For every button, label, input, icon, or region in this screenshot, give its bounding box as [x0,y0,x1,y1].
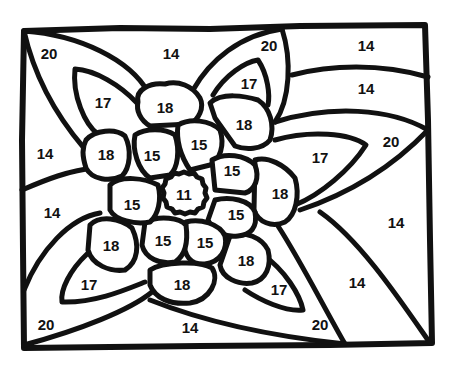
region-number-right-lower: 14 [388,215,405,230]
region-number-leaf-br: 17 [271,282,288,297]
region-number-leaf-right: 17 [312,150,329,165]
region-number-petal-inner-tl: 15 [144,148,161,163]
region-number-bottom-right-mid: 14 [349,275,366,290]
region-number-top-right: 14 [358,38,375,53]
stripe-upper [292,67,428,77]
region-number-center: 11 [176,187,192,202]
region-number-petal-inner-tr: 15 [224,163,241,178]
region-number-corner-tl: 20 [41,46,58,61]
region-number-corner-br: 20 [312,317,329,332]
region-number-bottom-center: 14 [182,320,199,335]
region-number-petal-inner-bl: 15 [155,233,172,248]
region-number-petal-outer-right: 18 [272,186,289,201]
region-number-petal-inner-bottom: 15 [197,235,214,250]
region-number-leaf-top: 17 [241,76,258,91]
left-stripe-upper [22,168,95,190]
region-number-left-lower: 14 [44,205,61,220]
region-number-left-mid: 14 [37,146,54,161]
region-number-petal-outer-br: 18 [238,253,255,268]
region-number-corner-bl: 20 [38,317,55,332]
region-number-top-mid-right: 20 [261,38,278,53]
region-number-leaf-bl: 17 [81,277,98,292]
right-sweep [320,212,430,343]
coloring-page: 20 14 20 14 17 17 14 18 18 20 14 18 15 1… [0,0,449,372]
region-number-petal-outer-top: 18 [157,100,174,115]
region-number-leaf-tl: 17 [95,95,112,110]
region-number-petal-outer-bl: 18 [103,238,120,253]
stripe-lower [275,111,428,130]
region-number-petal-inner-br: 15 [228,207,245,222]
region-number-right-mid: 20 [383,134,400,149]
region-number-top-center: 14 [163,46,180,61]
region-number-petal-outer-left: 18 [98,147,115,162]
region-number-petal-outer-tr: 18 [236,117,253,132]
region-number-petal-inner-top: 15 [191,137,208,152]
region-number-petal-outer-bottom: 18 [174,277,191,292]
region-number-petal-inner-left: 15 [124,197,141,212]
line-art [0,0,449,372]
region-number-stripe-right-upper: 14 [358,81,375,96]
